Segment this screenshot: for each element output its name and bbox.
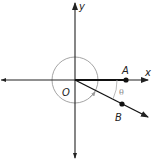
point-a-label: A [121,65,129,76]
x-axis-left-arrow-icon [1,78,6,82]
point-b [119,101,124,106]
point-a [123,77,128,82]
origin-label: O [62,87,70,98]
x-axis-label: x [144,67,151,78]
theta-label: θ [119,88,124,97]
theta-arc [113,80,117,99]
point-b-label: B [115,112,122,123]
angle-diagram: y x A B O θ [0,0,156,164]
y-axis-label: y [78,1,86,12]
ray-ob [75,80,148,117]
rotation-arrow-icon [90,92,95,97]
y-axis-down-arrow-icon [73,153,77,159]
